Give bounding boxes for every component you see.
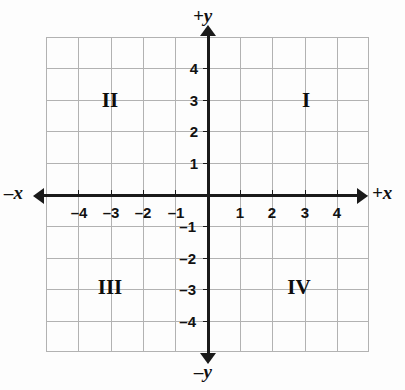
y-axis-tick [203,100,210,101]
y-tick-label-neg2: –2 [170,251,196,266]
y-axis-tick [203,226,210,227]
x-tick-label-2: 2 [259,205,285,220]
y-axis-tick [203,68,210,69]
y-axis-tick [203,258,210,259]
y-tick-label-neg1: –1 [170,219,196,234]
y-axis [207,33,210,356]
arrow-up-icon [200,25,216,36]
y-tick-label-neg4: –4 [170,314,196,329]
x-tick-label-3: 3 [292,205,318,220]
y-tick-label-3: 3 [172,93,198,108]
y-tick-label-4: 4 [172,61,198,76]
x-axis-tick [78,190,79,197]
axis-label-negative-x: –x [4,183,23,202]
y-axis-tick [203,163,210,164]
quadrant-label-one: I [284,90,328,111]
x-axis-tick [240,190,241,197]
x-axis-tick [272,190,273,197]
x-axis-tick [111,190,112,197]
x-tick-label-neg3: –3 [98,205,124,220]
x-tick-label-neg4: –4 [66,205,92,220]
y-tick-label-1: 1 [172,156,198,171]
quadrant-label-two: II [88,90,132,111]
x-axis [42,194,358,197]
arrow-left-icon [33,188,44,204]
quadrant-label-four: IV [275,277,323,298]
x-tick-label-1: 1 [227,205,253,220]
quadrant-label-three: III [84,277,136,298]
x-axis-tick [143,190,144,197]
y-axis-tick [203,289,210,290]
y-axis-tick [203,321,210,322]
arrow-right-icon [357,188,368,204]
x-tick-label-neg2: –2 [130,205,156,220]
y-axis-tick [203,131,210,132]
axis-label-positive-y: +y [193,6,212,25]
x-tick-label-4: 4 [324,205,350,220]
coordinate-plane-figure: –4 –3 –2 –1 1 2 3 4 4 3 2 1 –1 –2 –3 –4 … [0,0,405,390]
axis-label-positive-x: +x [372,183,392,202]
x-axis-tick [337,190,338,197]
x-axis-tick [175,190,176,197]
y-tick-label-neg3: –3 [170,282,196,297]
axis-label-negative-y: –y [194,362,212,381]
y-tick-label-2: 2 [172,124,198,139]
x-axis-tick [305,190,306,197]
